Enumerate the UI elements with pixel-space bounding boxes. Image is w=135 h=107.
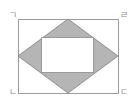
vertex-label-top-left: ㄱ <box>9 11 17 20</box>
vertex-label-bottom-right: ㄷ <box>120 88 128 97</box>
geometry-figure: ㄱ ㄹ ㄴ ㄷ <box>0 0 135 107</box>
inner-rectangle <box>41 37 93 72</box>
figure-canvas <box>0 0 135 107</box>
vertex-label-top-right: ㄹ <box>120 11 128 20</box>
vertex-label-bottom-left: ㄴ <box>9 88 17 97</box>
